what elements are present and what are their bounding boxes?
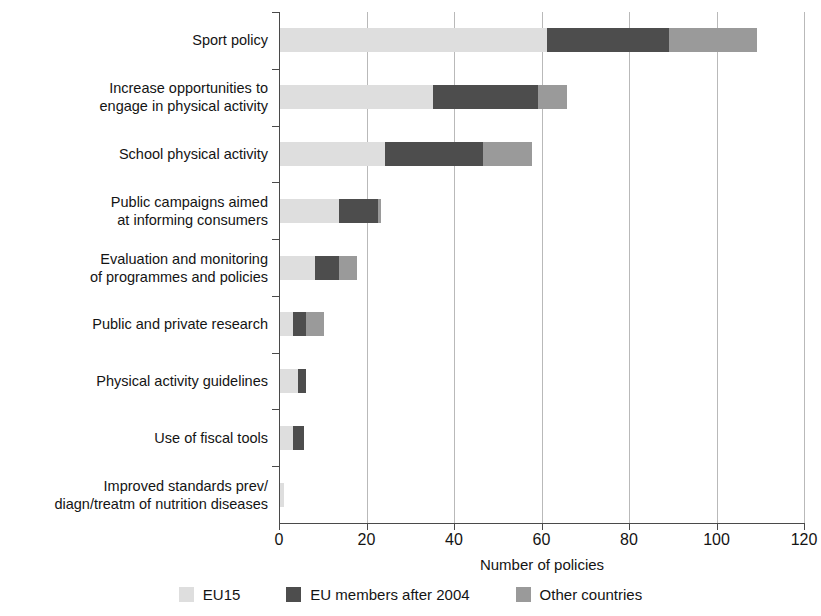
chart-legend: EU15EU members after 2004Other countries [0, 586, 821, 603]
x-axis-title: Number of policies [279, 556, 805, 573]
x-axis-tick [542, 523, 543, 530]
bar-segment-eu15 [280, 369, 298, 393]
stacked-bar [280, 85, 567, 109]
y-axis-category-label: Improved standards prev/ diagn/treatm of… [0, 477, 268, 513]
x-axis-tick [367, 523, 368, 530]
gridline [804, 12, 805, 523]
legend-label: EU15 [203, 586, 241, 603]
stacked-bar [280, 28, 757, 52]
bar-segment-eu15 [280, 28, 547, 52]
x-axis-tick-label: 0 [249, 531, 309, 549]
bar-segment-eu-after-2004 [293, 426, 304, 450]
y-axis-tick [272, 182, 280, 183]
x-axis-tick [279, 523, 280, 530]
bar-segment-eu-after-2004 [293, 312, 306, 336]
y-axis-tick [272, 69, 280, 70]
bar-segment-other-countries [538, 85, 566, 109]
stacked-bar [280, 199, 381, 223]
bar-segment-other-countries [378, 199, 380, 223]
y-axis-tick [272, 353, 280, 354]
legend-label: Other countries [540, 586, 643, 603]
gridline [717, 12, 718, 523]
x-axis-tick [629, 523, 630, 530]
bar-segment-other-countries [339, 256, 357, 280]
y-axis-tick [272, 12, 280, 13]
x-axis-tick [717, 523, 718, 530]
y-axis-tick [272, 466, 280, 467]
y-axis-category-label: School physical activity [0, 145, 268, 163]
bar-segment-eu15 [280, 312, 293, 336]
x-axis-tick-label: 100 [687, 531, 747, 549]
bar-segment-eu-after-2004 [315, 256, 339, 280]
bar-segment-eu15 [280, 426, 293, 450]
bar-segment-other-countries [669, 28, 757, 52]
y-axis-category-label: Public campaigns aimed at informing cons… [0, 193, 268, 229]
y-axis-category-label: Increase opportunities to engage in phys… [0, 79, 268, 115]
bar-segment-eu15 [280, 256, 315, 280]
y-axis-category-label: Use of fiscal tools [0, 429, 268, 447]
bar-segment-eu15 [280, 483, 284, 507]
bar-segment-eu-after-2004 [298, 369, 307, 393]
stacked-bar [280, 312, 324, 336]
x-axis-tick [804, 523, 805, 530]
y-axis-tick [272, 296, 280, 297]
stacked-bar [280, 483, 284, 507]
legend-swatch-after-2004 [286, 587, 301, 602]
bar-segment-eu15 [280, 142, 385, 166]
x-axis-tick [454, 523, 455, 530]
y-axis-category-label: Sport policy [0, 31, 268, 49]
legend-item: Other countries [516, 586, 643, 603]
stacked-bar-chart: 020406080100120 Number of policies Sport… [0, 0, 821, 616]
y-axis-tick [272, 126, 280, 127]
x-axis-tick-label: 40 [424, 531, 484, 549]
bar-segment-eu15 [280, 199, 339, 223]
legend-item: EU members after 2004 [286, 586, 469, 603]
stacked-bar [280, 142, 532, 166]
y-axis-category-label: Evaluation and monitoring of programmes … [0, 250, 268, 286]
legend-item: EU15 [179, 586, 241, 603]
x-axis-tick-label: 20 [337, 531, 397, 549]
y-axis-category-label: Public and private research [0, 315, 268, 333]
bar-segment-other-countries [483, 142, 531, 166]
stacked-bar [280, 256, 357, 280]
x-axis-tick-label: 80 [599, 531, 659, 549]
bar-segment-eu15 [280, 85, 433, 109]
x-axis-tick-label: 60 [512, 531, 572, 549]
legend-swatch-eu15 [179, 587, 194, 602]
legend-label: EU members after 2004 [310, 586, 469, 603]
gridline [629, 12, 630, 523]
legend-swatch-other-countries [516, 587, 531, 602]
bar-segment-eu-after-2004 [547, 28, 670, 52]
bar-segment-eu-after-2004 [433, 85, 538, 109]
stacked-bar [280, 426, 304, 450]
bar-segment-other-countries [306, 312, 324, 336]
y-axis-category-label: Physical activity guidelines [0, 372, 268, 390]
y-axis-tick [272, 409, 280, 410]
bar-segment-eu-after-2004 [385, 142, 483, 166]
y-axis-tick [272, 239, 280, 240]
stacked-bar [280, 369, 306, 393]
bar-segment-eu-after-2004 [339, 199, 378, 223]
x-axis-tick-label: 120 [774, 531, 821, 549]
